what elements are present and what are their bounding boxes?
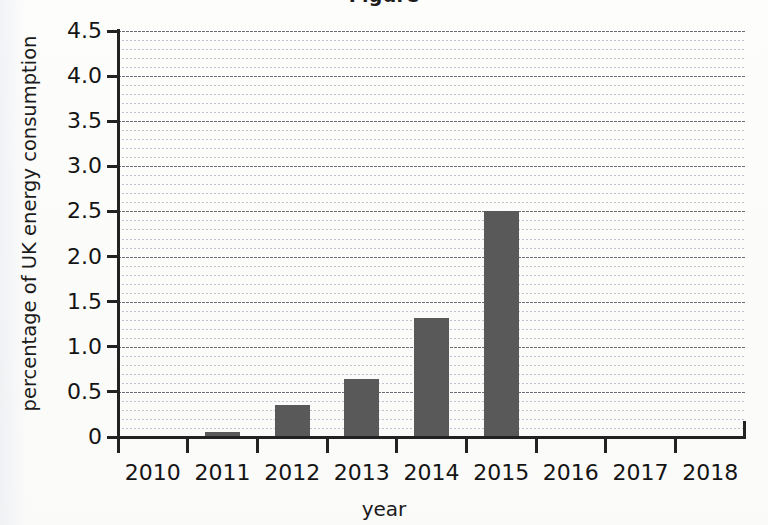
gridline-minor [118,184,745,185]
gridline-minor [118,130,745,131]
chart-title-cropped: Figure [0,0,768,11]
gridline-minor [118,193,745,194]
gridline-minor [118,157,745,158]
gridline-minor [118,148,745,149]
y-axis-tick-0.5 [107,390,119,393]
x-axis-tick [117,438,120,453]
gridline-major [118,257,745,258]
x-axis-tick [326,438,329,453]
x-axis-title: year [0,497,768,521]
gridline-minor [118,293,745,294]
gridline-minor [118,248,745,249]
chart-title-text: Figure [0,0,768,6]
gridline-minor [118,311,745,312]
y-axis-tick-4.5 [107,30,119,33]
gridline-minor [118,220,745,221]
x-axis-tick-label: 2013 [322,462,402,484]
gridline-major [118,121,745,122]
gridline-minor [118,112,745,113]
bar-2014 [414,318,449,437]
y-axis-tick-3.0 [107,165,119,168]
gridline-minor [118,49,745,50]
gridline-major [118,31,745,32]
gridline-minor [118,275,745,276]
x-axis-tick-label: 2014 [392,462,472,484]
bar-2015 [484,211,519,437]
y-axis-spine [117,29,120,439]
gridline-minor [118,103,745,104]
y-axis-tick-label: 0.5 [38,381,102,403]
gridline-minor [118,175,745,176]
x-axis-right-endcap [743,421,746,439]
x-axis-tick-label: 2017 [601,462,681,484]
x-axis-spine [117,436,746,439]
x-axis-tick [535,438,538,453]
y-axis-tick-1.5 [107,300,119,303]
gridline-minor [118,229,745,230]
y-axis-tick-2.0 [107,255,119,258]
y-axis-tick-1.0 [107,345,119,348]
y-axis-tick-label: 4.5 [38,20,102,42]
chart-figure: Figure percentage of UK energy consumpti… [0,0,768,525]
bar-2012 [275,405,310,437]
y-axis-tick-labels: 00.51.01.52.02.53.03.54.04.5 [34,0,102,525]
gridline-minor [118,266,745,267]
x-axis-tick-label: 2016 [531,462,611,484]
bar-2013 [344,379,379,437]
y-axis-tick-label: 0 [38,426,102,448]
x-axis-tick [186,438,189,453]
y-axis-tick-label: 3.0 [38,155,102,177]
y-axis-tick-4.0 [107,75,119,78]
gridline-minor [118,94,745,95]
plot-area [118,31,745,437]
gridline-minor [118,85,745,86]
y-axis-tick-label: 3.5 [38,110,102,132]
x-axis-tick [465,438,468,453]
y-axis-tick-2.5 [107,210,119,213]
gridline-minor [118,202,745,203]
x-axis-tick-label: 2012 [252,462,332,484]
gridline-minor [118,139,745,140]
gridline-major [118,211,745,212]
gridline-minor [118,284,745,285]
y-axis-tick-label: 4.0 [38,65,102,87]
x-axis-tick [604,438,607,453]
gridline-minor [118,67,745,68]
x-axis-tick [674,438,677,453]
x-axis-tick-label: 2011 [183,462,263,484]
x-axis-tick-label: 2015 [461,462,541,484]
gridline-major [118,76,745,77]
y-axis-tick-label: 1.5 [38,291,102,313]
x-axis-tick [395,438,398,453]
gridline-minor [118,40,745,41]
x-axis-tick-label: 2010 [113,462,193,484]
y-axis-tick-label: 2.5 [38,200,102,222]
y-axis-tick-label: 2.0 [38,246,102,268]
x-axis-tick [256,438,259,453]
y-axis-tick-label: 1.0 [38,336,102,358]
gridline-major [118,166,745,167]
x-axis-tick-label: 2018 [670,462,750,484]
gridline-minor [118,239,745,240]
gridline-minor [118,58,745,59]
gridline-major [118,302,745,303]
y-axis-tick-3.5 [107,120,119,123]
